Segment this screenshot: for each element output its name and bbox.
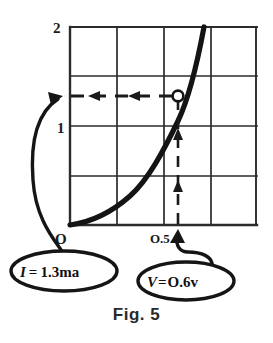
- current-arrowhead-1-icon: [128, 91, 140, 101]
- voltage-arrowhead-2-icon: [173, 180, 183, 192]
- operating-point-marker: [173, 91, 184, 102]
- voltage-projection-line: [173, 102, 183, 224]
- diode-characteristic-plot: 2 1 O O.5 I=1.3ma V=O.6v: [0, 0, 273, 343]
- voltage-equals: =: [158, 274, 167, 290]
- plot-grid: [70, 27, 257, 225]
- voltage-callout: V=O.6v: [138, 262, 234, 300]
- y-axis-label-2: 2: [53, 20, 61, 36]
- current-symbol: I: [19, 264, 27, 280]
- figure-caption: Fig. 5: [0, 305, 273, 325]
- current-equals: =: [29, 264, 38, 280]
- current-callout-label: I=1.3ma: [19, 264, 80, 280]
- voltage-leader-arrowhead-icon: [170, 229, 185, 243]
- x-axis-label-05: O.5: [150, 231, 170, 246]
- y-axis-label-1: 1: [57, 120, 65, 136]
- voltage-value: O.6v: [168, 274, 199, 290]
- current-callout: I=1.3ma: [11, 251, 117, 291]
- voltage-callout-label: V=O.6v: [147, 274, 198, 290]
- figure-5: 2 1 O O.5 I=1.3ma V=O.6v Fig. 5: [0, 0, 273, 343]
- current-arrowhead-2-icon: [88, 91, 100, 101]
- current-value: 1.3ma: [40, 264, 79, 280]
